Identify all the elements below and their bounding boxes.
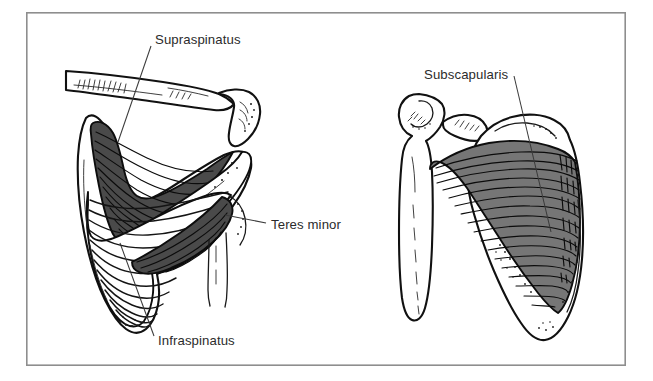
infraspinatus-label: Infraspinatus (158, 333, 235, 348)
humerus-medial-line (225, 233, 227, 307)
supraspinatus-label: Supraspinatus (155, 32, 241, 47)
posterior-scapula-view (66, 71, 260, 333)
clavicle-outline (66, 71, 234, 110)
teres-minor-label: Teres minor (271, 217, 341, 232)
clavicle-bone (66, 71, 234, 110)
humerus-outline (399, 94, 445, 321)
humerus-bone (399, 94, 445, 321)
anatomy-figure: Supraspinatus Teres minor Infraspinatus … (0, 0, 653, 381)
anterior-scapula-view (399, 94, 583, 340)
humerus-lateral-line (208, 240, 210, 306)
subscapularis-label: Subscapularis (424, 67, 508, 82)
anatomy-illustration-svg: Supraspinatus Teres minor Infraspinatus … (0, 0, 653, 381)
annotation-teres-minor: Teres minor (225, 215, 341, 232)
